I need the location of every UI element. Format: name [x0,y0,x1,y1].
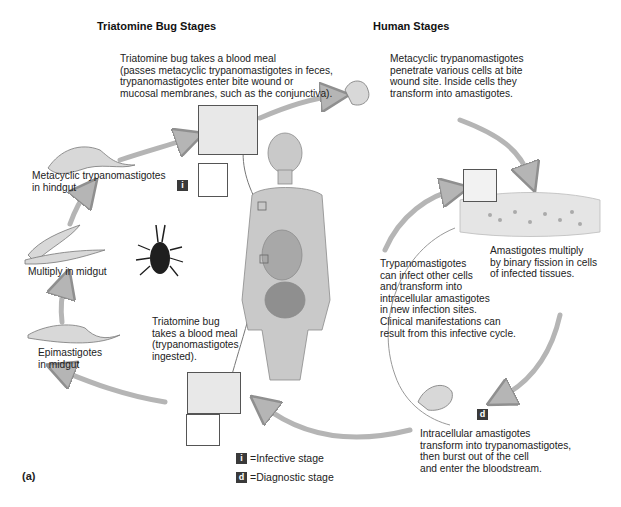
step-burst-out: Intracellular amastigotes transform into… [420,428,571,474]
heading-bug-stages: Triatomine Bug Stages [97,20,216,32]
infective-legend-label: =Infective stage [250,452,324,464]
panel-label: (a) [22,470,35,482]
arrow-to-epimastigotes [60,370,165,402]
step-penetrate-cells: Metacyclic trypanomastigotes penetrate v… [390,53,524,99]
heading-human-stages: Human Stages [373,20,449,32]
diagnostic-legend-badge: d [236,472,247,483]
inset-bug-feeding-bottom [187,372,241,414]
infective-stage-badge: i [177,180,188,191]
step-multiply-midgut: Multiply in midgut [28,266,107,278]
step-bug-blood-meal-infect: Triatomine bug takes a blood meal (passe… [120,53,333,99]
arrow-to-bug-feed [120,138,190,160]
epimastigote-parasite [28,325,120,343]
inset-metacyclic-top [198,163,228,197]
diagnostic-legend-label: =Diagnostic stage [250,471,334,483]
inset-bug-feeding-top [198,105,258,155]
infective-legend-badge: i [236,453,247,464]
arrow-to-amastigote-cell [385,190,455,250]
step-epimastigotes: Epimastigotes in midgut [38,347,102,370]
arrow-to-multiply [61,283,65,322]
triatomine-bug-illustration [136,225,183,276]
legend-diagnostic: d =Diagnostic stage [236,471,334,483]
step-infect-other-cells: Trypanomastigotes can infect other cells… [380,258,516,339]
trypomastigote-burst-parasite [418,385,452,410]
arrow-to-metacyclic-hindgut [70,190,88,224]
inset-trypomastigote-bottom [186,414,220,446]
human-body-illustration [242,133,330,380]
step-bug-blood-meal-ingest: Triatomine bug takes a blood meal (trypa… [152,316,239,362]
metacyclic-human-parasite [345,81,369,105]
diagnostic-stage-badge: d [477,409,488,420]
step-metacyclic-hindgut: Metacyclic trypanomastigotes in hindgut [32,170,166,193]
legend-infective: i =Infective stage [236,452,324,464]
arrow-to-bug-meal [262,405,410,437]
inset-amastigote-cell [463,169,497,202]
